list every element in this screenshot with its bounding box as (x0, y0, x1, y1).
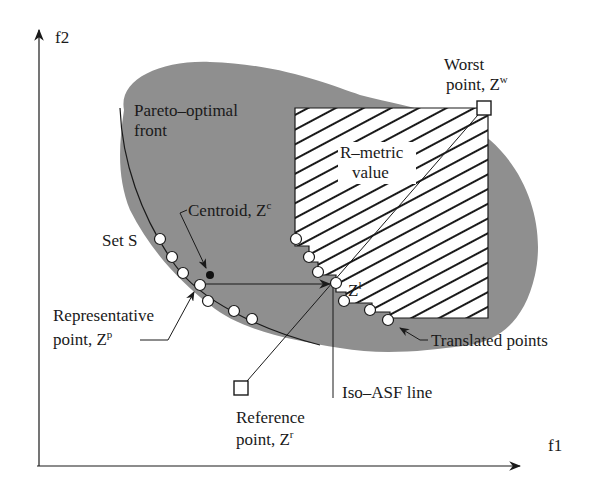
reference-label-2: point, Zr (236, 428, 294, 449)
representative-label-2: point, Zp (53, 328, 113, 349)
centroid-point (206, 271, 214, 279)
r-metric-label-2: value (352, 163, 389, 182)
reference-point-marker (234, 381, 248, 395)
y-axis-label: f2 (55, 28, 69, 47)
iso-asf-label: Iso–ASF line (342, 383, 432, 402)
worst-point-marker (477, 101, 491, 115)
x-axis-label: f1 (548, 436, 562, 455)
r-metric-diagram: R–metric value f2 f1 Pareto–optimal fron… (0, 0, 605, 491)
worst-point-label-2: point, Zw (446, 73, 508, 94)
r-metric-label-1: R–metric (340, 143, 404, 162)
representative-label-1: Representative (53, 306, 154, 325)
pareto-front-label-2: front (134, 121, 167, 140)
centroid-label: Centroid, Zc (188, 199, 271, 220)
set-s-label: Set S (102, 231, 137, 250)
pareto-front-label-1: Pareto–optimal (134, 101, 238, 120)
reference-label-1: Reference (236, 408, 305, 427)
worst-point-label-1: Worst (444, 55, 484, 74)
translated-label: Translated points (431, 331, 548, 350)
